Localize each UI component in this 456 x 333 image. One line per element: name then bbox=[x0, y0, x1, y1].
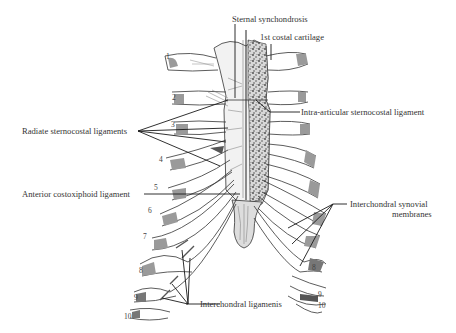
label-radiate-sternocostal-ligaments: Radiate sternocostal ligaments bbox=[22, 126, 127, 136]
rib-number-9: 9 bbox=[134, 294, 138, 302]
label-sternal-synchondrosis: Sternal synchondrosis bbox=[232, 14, 308, 24]
anatomy-figure: Sternal synchondrosis 1st costal cartila… bbox=[0, 0, 456, 333]
rib-number-1: 1 bbox=[166, 53, 170, 61]
rib-number-2: 2 bbox=[172, 94, 176, 102]
rib-number-10: 10 bbox=[124, 313, 132, 321]
rib-number-4: 4 bbox=[159, 156, 163, 164]
label-interchondral-synovial-membranes-line1: Interchondral synovial bbox=[350, 199, 428, 209]
rib-number-right-8: 8 bbox=[312, 264, 316, 272]
rib-number-6: 6 bbox=[148, 207, 152, 215]
rib-number-3: 3 bbox=[171, 121, 175, 129]
label-interchondral-ligaments: Interchondral ligamenis bbox=[200, 299, 282, 309]
thoracic-cage-illustration bbox=[0, 0, 456, 333]
label-anterior-costoxiphoid-ligament: Anterior costoxiphoid ligament bbox=[22, 189, 130, 199]
label-interchondral-synovial-membranes-line2: membranes bbox=[392, 209, 432, 219]
label-intra-articular-sternocostal-ligament: Intra-articular sternocostal ligament bbox=[301, 107, 424, 117]
rib-number-8: 8 bbox=[139, 267, 143, 275]
sternum bbox=[214, 30, 270, 206]
rib-number-right-10: 10 bbox=[318, 302, 326, 310]
rib-number-right-9: 9 bbox=[318, 291, 322, 299]
rib-number-5: 5 bbox=[154, 184, 158, 192]
label-first-costal-cartilage: 1st costal cartilage bbox=[260, 32, 324, 42]
rib-number-7: 7 bbox=[143, 233, 147, 241]
left-ribs bbox=[130, 53, 238, 320]
